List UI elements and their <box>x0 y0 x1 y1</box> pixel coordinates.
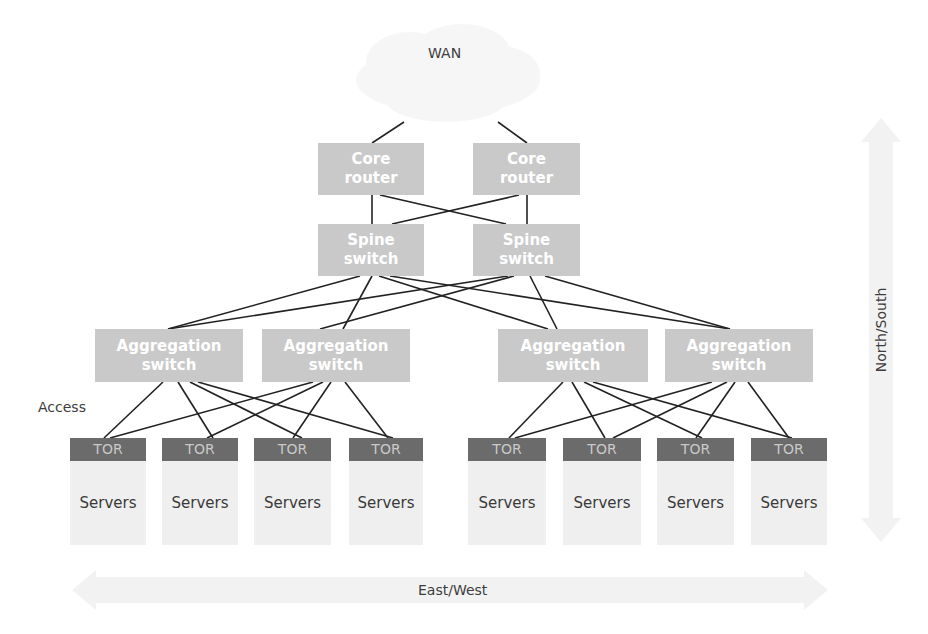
servers-block: Servers <box>349 461 423 545</box>
link-line-spine-agg <box>379 276 548 329</box>
servers-label: Servers <box>760 494 817 512</box>
servers-label: Servers <box>79 494 136 512</box>
tor-switch[interactable]: TOR <box>751 438 827 461</box>
aggregation-switch-3[interactable]: Aggregationswitch <box>498 329 648 382</box>
aggregation-switch-1[interactable]: Aggregationswitch <box>95 329 243 382</box>
server-rack-2[interactable]: TOR Servers <box>162 438 238 545</box>
servers-block: Servers <box>657 461 734 545</box>
servers-block: Servers <box>162 461 238 545</box>
servers-label: Servers <box>478 494 535 512</box>
servers-label: Servers <box>573 494 630 512</box>
aggregation-switch-4[interactable]: Aggregationswitch <box>665 329 813 382</box>
link-line-agg-tor-right <box>748 382 789 438</box>
cloud-icon <box>356 24 540 122</box>
link-line-spine-agg <box>545 276 730 329</box>
link-line-spine-agg <box>168 276 508 329</box>
link-line-agg-tor-left <box>104 382 163 438</box>
link-lines <box>104 122 792 438</box>
link-line-spine-agg <box>320 276 514 329</box>
aggregation-switch-4-label: Aggregationswitch <box>687 337 792 375</box>
server-rack-7[interactable]: TOR Servers <box>657 438 734 545</box>
link-line-wan-core <box>498 122 527 143</box>
tor-switch[interactable]: TOR <box>349 438 423 461</box>
east-west-label: East/West <box>418 582 487 598</box>
core-router-1[interactable]: Corerouter <box>318 143 424 195</box>
link-line-spine-agg <box>168 276 360 329</box>
tor-switch[interactable]: TOR <box>563 438 641 461</box>
link-line-spine-agg <box>530 276 557 329</box>
servers-label: Servers <box>264 494 321 512</box>
link-line-agg-tor-right <box>696 382 735 438</box>
server-rack-3[interactable]: TOR Servers <box>254 438 331 545</box>
network-diagram: WAN Corerouter Corerouter Spineswitch Sp… <box>0 0 928 634</box>
spine-switch-2-label: Spineswitch <box>499 231 554 269</box>
wan-label: WAN <box>428 45 461 61</box>
servers-block: Servers <box>751 461 827 545</box>
link-line-spine-agg <box>390 276 730 329</box>
spine-switch-2[interactable]: Spineswitch <box>473 224 580 276</box>
server-rack-4[interactable]: TOR Servers <box>349 438 423 545</box>
spine-switch-1-label: Spineswitch <box>344 231 399 269</box>
tor-switch[interactable]: TOR <box>657 438 734 461</box>
servers-label: Servers <box>667 494 724 512</box>
tor-switch[interactable]: TOR <box>162 438 238 461</box>
aggregation-switch-2-label: Aggregationswitch <box>284 337 389 375</box>
tor-switch[interactable]: TOR <box>468 438 546 461</box>
link-line-agg-tor-right <box>613 382 727 438</box>
link-line-agg-tor-left <box>198 382 393 438</box>
servers-label: Servers <box>171 494 228 512</box>
server-rack-8[interactable]: TOR Servers <box>751 438 827 545</box>
core-router-2[interactable]: Corerouter <box>473 143 580 195</box>
aggregation-switch-2[interactable]: Aggregationswitch <box>262 329 410 382</box>
link-line-agg-tor-left <box>293 382 331 438</box>
aggregation-switch-3-label: Aggregationswitch <box>521 337 626 375</box>
aggregation-switch-1-label: Aggregationswitch <box>117 337 222 375</box>
north-south-label: North/South <box>873 288 889 373</box>
servers-block: Servers <box>563 461 641 545</box>
link-line-agg-tor-left <box>110 382 313 438</box>
access-layer-label: Access <box>38 399 86 415</box>
servers-block: Servers <box>70 461 146 545</box>
link-line-agg-tor-right <box>593 382 792 438</box>
servers-block: Servers <box>468 461 546 545</box>
server-rack-5[interactable]: TOR Servers <box>468 438 546 545</box>
link-line-agg-tor-right <box>509 382 563 438</box>
server-rack-1[interactable]: TOR Servers <box>70 438 146 545</box>
spine-switch-1[interactable]: Spineswitch <box>318 224 424 276</box>
link-line-wan-core <box>372 122 404 143</box>
link-line-core-spine <box>392 195 519 224</box>
core-router-2-label: Corerouter <box>500 150 553 188</box>
tor-switch[interactable]: TOR <box>254 438 331 461</box>
servers-block: Servers <box>254 461 331 545</box>
server-rack-6[interactable]: TOR Servers <box>563 438 641 545</box>
link-line-core-spine <box>380 195 506 224</box>
tor-switch[interactable]: TOR <box>70 438 146 461</box>
servers-label: Servers <box>357 494 414 512</box>
core-router-1-label: Corerouter <box>344 150 397 188</box>
